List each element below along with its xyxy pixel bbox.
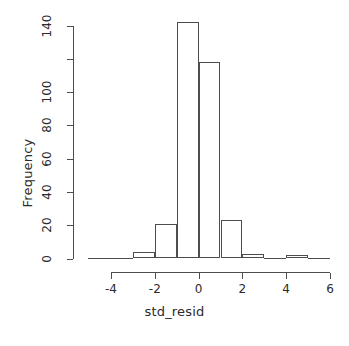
x-tick-label: 4 bbox=[266, 282, 306, 296]
histogram-plot: Frequency std_resid 020406080100140 -4-2… bbox=[0, 0, 349, 346]
histogram-bar-empty bbox=[111, 258, 133, 259]
histogram-bar-empty bbox=[89, 258, 111, 259]
y-axis-line bbox=[73, 26, 74, 259]
y-tick-mark bbox=[67, 26, 73, 27]
x-tick-label: 6 bbox=[310, 282, 349, 296]
x-tick-mark bbox=[155, 273, 156, 279]
x-tick-mark bbox=[286, 273, 287, 279]
histogram-bar bbox=[155, 224, 177, 259]
histogram-bar bbox=[177, 22, 199, 258]
y-tick-mark bbox=[67, 59, 73, 60]
y-tick-mark bbox=[67, 159, 73, 160]
histogram-bar bbox=[286, 255, 308, 258]
y-tick-mark bbox=[67, 225, 73, 226]
y-tick-label: 20 bbox=[39, 208, 55, 242]
x-tick-label: 0 bbox=[179, 282, 219, 296]
x-tick-mark bbox=[199, 273, 200, 279]
x-tick-mark bbox=[111, 273, 112, 279]
y-tick-mark bbox=[67, 92, 73, 93]
y-axis-title: Frequency bbox=[12, 0, 42, 346]
y-tick-label: 100 bbox=[39, 75, 55, 109]
histogram-bar-empty bbox=[308, 258, 330, 259]
y-tick-label: 40 bbox=[39, 175, 55, 209]
histogram-bar-empty bbox=[264, 258, 286, 259]
x-tick-label: -4 bbox=[91, 282, 131, 296]
y-tick-label: 60 bbox=[39, 142, 55, 176]
y-tick-mark bbox=[67, 192, 73, 193]
x-axis-line bbox=[111, 272, 330, 273]
x-tick-mark bbox=[330, 273, 331, 279]
histogram-bar bbox=[199, 62, 221, 258]
histogram-bar bbox=[221, 220, 243, 258]
x-tick-label: 2 bbox=[222, 282, 262, 296]
y-tick-mark bbox=[67, 125, 73, 126]
x-tick-label: -2 bbox=[135, 282, 175, 296]
y-tick-label: 140 bbox=[39, 9, 55, 43]
x-tick-mark bbox=[242, 273, 243, 279]
y-tick-label: 0 bbox=[39, 242, 55, 276]
x-axis-title: std_resid bbox=[0, 304, 349, 319]
histogram-bar bbox=[242, 254, 264, 259]
y-tick-mark bbox=[67, 259, 73, 260]
baseline-left-stub bbox=[88, 258, 90, 259]
y-tick-label: 80 bbox=[39, 108, 55, 142]
histogram-bar bbox=[133, 252, 155, 259]
